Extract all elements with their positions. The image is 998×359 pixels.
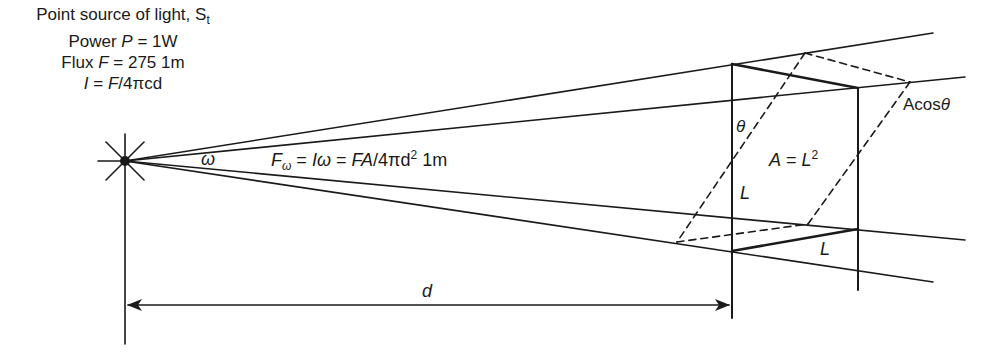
source-info-block: Point source of light, St Power P = 1W F… [4,4,242,94]
side-length-vertical-label: L [740,184,750,202]
flux-equation: Fω = Iω = FA/4πd2 1m [271,149,447,172]
flux-eq-sub: ω [282,159,291,173]
power-prefix: Power [68,32,121,51]
flux-line: Flux F = 275 1m [4,52,242,73]
intensity-eq: = [89,74,108,93]
projected-area-dashed [677,53,910,242]
ray-bottom-inner [125,161,965,240]
solid-angle-label: ω [201,150,215,168]
projected-area-prefix: Acos [903,95,941,114]
intensity-line: I = F/4πcd [4,73,242,94]
flux-eq-fa: FA [351,150,373,170]
source-title: Point source of light, St [4,4,242,31]
power-value: = 1W [133,32,178,51]
intensity-flux-var: F [108,74,118,93]
omega-symbol: ω [201,149,215,169]
flux-eq-var: F [271,150,282,170]
source-subscript: t [206,13,209,27]
area-exponent: 2 [812,148,819,162]
intensity-rest: /4πcd [118,74,162,93]
ray-top-inner [125,77,965,161]
area-l-var: L [802,150,812,170]
flux-eq-unit: 1m [417,150,447,170]
theta-symbol: θ [736,117,745,136]
flux-value: = 275 1m [109,53,185,72]
ray-bottom-outer [125,161,933,282]
distance-label: d [422,282,432,300]
area-eq: = [781,150,802,170]
flux-var: F [98,53,108,72]
flux-eq-equals2: = [331,150,352,170]
projected-area-theta: θ [941,95,950,114]
distance-d: d [422,281,432,301]
side-l-vertical: L [740,183,750,203]
flux-eq-denominator: /4πd [373,150,410,170]
area-label: A = L2 [769,149,818,169]
diagram-canvas: Point source of light, St Power P = 1W F… [0,0,998,359]
power-line: Power P = 1W [4,31,242,52]
flux-eq-omega: ω [317,150,331,170]
side-l-bottom: L [820,239,830,259]
ray-top-outer [125,33,933,161]
flux-prefix: Flux [61,53,98,72]
light-burst-icon [98,134,144,180]
side-length-bottom-label: L [820,240,830,258]
source-title-text: Point source of light, S [36,5,206,24]
theta-label: θ [736,118,745,135]
projected-area-label: Acosθ [903,96,950,113]
flux-eq-equals1: = [291,150,312,170]
area-var: A [769,150,781,170]
power-var: P [121,32,132,51]
